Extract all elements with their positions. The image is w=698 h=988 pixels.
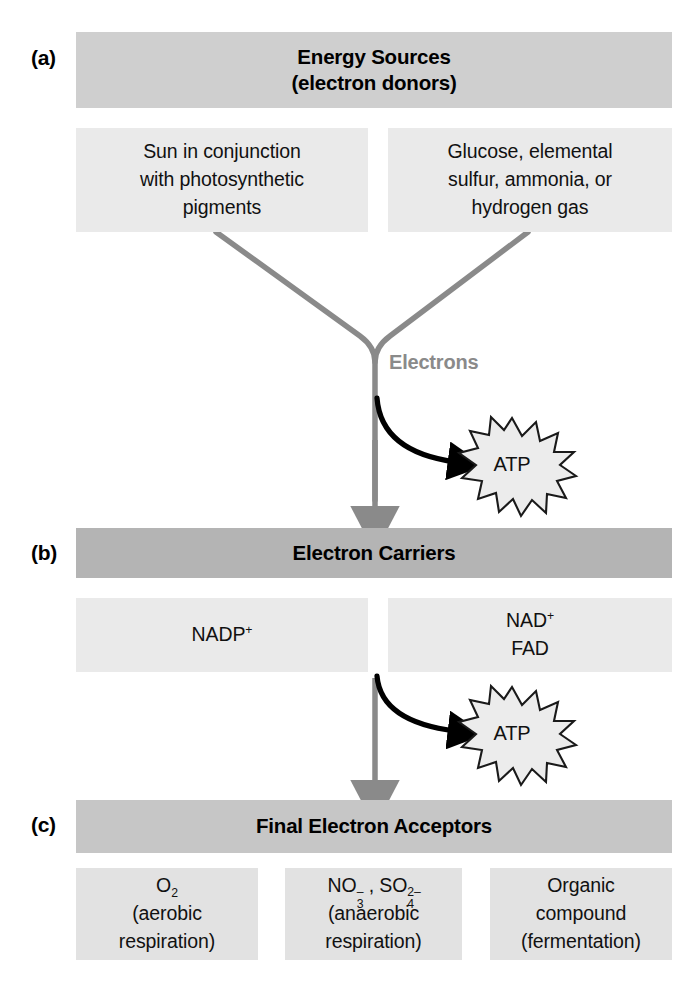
energy-flow-diagram: (a) Energy Sources (electron donors) Sun… bbox=[0, 0, 698, 988]
formula-fad: FAD bbox=[506, 635, 554, 663]
final-acceptor-oxygen-line3: respiration) bbox=[119, 928, 215, 956]
formula-nad-charge: + bbox=[547, 609, 554, 623]
electron-carrier-box-nad-fad: NAD+ FAD bbox=[388, 598, 672, 672]
formula-nad-plus: NAD+ bbox=[506, 607, 554, 635]
final-acceptor-box-nitrate-sulfate: NO–3, SO2–4 (anaerobic respiration) bbox=[285, 868, 462, 960]
header-electron-carriers: Electron Carriers bbox=[76, 528, 672, 578]
energy-source-box-sun: Sun in conjunction with photosynthetic p… bbox=[76, 128, 368, 232]
final-acceptor-nitrate-line3: respiration) bbox=[325, 928, 421, 956]
formula-nadp-base: NADP bbox=[192, 623, 246, 645]
electron-branch-left bbox=[216, 232, 375, 500]
header-electron-carriers-text: Electron Carriers bbox=[293, 540, 456, 566]
final-acceptor-organic-line2: compound bbox=[521, 900, 641, 928]
header-energy-sources-text: Energy Sources (electron donors) bbox=[291, 44, 456, 96]
formula-so4-count: 4 bbox=[407, 896, 414, 913]
formula-separator: , bbox=[369, 874, 380, 896]
header-energy-sources-line2: (electron donors) bbox=[291, 70, 456, 96]
formula-so4-base: SO bbox=[379, 874, 407, 896]
electron-branch-right bbox=[375, 232, 528, 362]
electron-carrier-nadp-text: NADP+ bbox=[192, 621, 253, 649]
energy-source-box-chemicals: Glucose, elemental sulfur, ammonia, or h… bbox=[388, 128, 672, 232]
electron-carrier-box-nadp: NADP+ bbox=[76, 598, 368, 672]
atp-label-1: ATP bbox=[482, 453, 542, 476]
final-acceptor-box-oxygen: O2 (aerobic respiration) bbox=[76, 868, 258, 960]
formula-no3-count: 3 bbox=[357, 896, 364, 913]
formula-no3-base: NO bbox=[328, 874, 357, 896]
header-final-electron-acceptors-text: Final Electron Acceptors bbox=[256, 813, 492, 839]
final-acceptor-oxygen-text: O2 (aerobic respiration) bbox=[119, 872, 215, 955]
formula-nitrate-sulfate: NO–3, SO2–4 bbox=[325, 872, 421, 900]
atp-production-arrow-1 bbox=[377, 398, 456, 462]
final-acceptor-nitrate-sulfate-text: NO–3, SO2–4 (anaerobic respiration) bbox=[325, 872, 421, 955]
panel-letter-c: (c) bbox=[31, 813, 56, 837]
header-energy-sources-line1: Energy Sources bbox=[291, 44, 456, 70]
final-acceptor-oxygen-line2: (aerobic bbox=[119, 900, 215, 928]
final-acceptor-organic-line1: Organic bbox=[521, 872, 641, 900]
formula-nadp-charge: + bbox=[245, 623, 252, 637]
formula-o2-count: 2 bbox=[171, 886, 178, 900]
header-energy-sources: Energy Sources (electron donors) bbox=[76, 32, 672, 108]
energy-source-sun-line3: pigments bbox=[140, 194, 304, 222]
final-acceptor-organic-text: Organic compound (fermentation) bbox=[521, 872, 641, 955]
energy-source-chem-line1: Glucose, elemental bbox=[447, 138, 612, 166]
formula-nadp-plus: NADP+ bbox=[192, 621, 253, 649]
energy-source-sun-line1: Sun in conjunction bbox=[140, 138, 304, 166]
panel-letter-b: (b) bbox=[31, 541, 57, 565]
header-final-electron-acceptors: Final Electron Acceptors bbox=[76, 800, 672, 853]
electrons-label: Electrons bbox=[389, 351, 478, 374]
final-acceptor-box-organic: Organic compound (fermentation) bbox=[490, 868, 672, 960]
energy-source-chem-line3: hydrogen gas bbox=[447, 194, 612, 222]
panel-letter-a: (a) bbox=[31, 46, 56, 70]
energy-source-chem-line2: sulfur, ammonia, or bbox=[447, 166, 612, 194]
atp-production-arrow-2 bbox=[377, 676, 456, 731]
energy-source-box-sun-text: Sun in conjunction with photosynthetic p… bbox=[140, 138, 304, 221]
electron-carrier-nad-fad-text: NAD+ FAD bbox=[506, 607, 554, 662]
final-acceptor-organic-line3: (fermentation) bbox=[521, 928, 641, 956]
energy-source-sun-line2: with photosynthetic bbox=[140, 166, 304, 194]
formula-o2: O2 bbox=[119, 872, 215, 900]
atp-label-2: ATP bbox=[482, 722, 542, 745]
formula-nad-base: NAD bbox=[506, 609, 547, 631]
formula-o2-base: O bbox=[156, 874, 171, 896]
energy-source-box-chemicals-text: Glucose, elemental sulfur, ammonia, or h… bbox=[447, 138, 612, 221]
